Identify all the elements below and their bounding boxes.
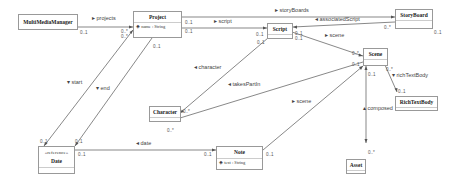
multiplicity: 0..1 bbox=[75, 139, 83, 144]
class-divider bbox=[396, 107, 437, 110]
assoc-composed: ▴ composed bbox=[363, 105, 393, 111]
class-attribute: ◈ name : String bbox=[134, 22, 181, 30]
class-name: Asset bbox=[347, 160, 365, 170]
assoc-storyboards: ▸ storyBoards bbox=[275, 7, 309, 13]
multiplicity: 0..* bbox=[386, 67, 393, 72]
class-name: Scene bbox=[364, 49, 387, 59]
multiplicity: 0..1 bbox=[256, 32, 264, 37]
assoc-associated-script: ◂ associatedScript bbox=[315, 16, 360, 22]
multiplicity: 0..1 bbox=[257, 40, 265, 45]
class-multimedia-manager[interactable]: MultiMediaManager bbox=[18, 14, 78, 30]
class-storyboard[interactable]: StoryBoard bbox=[395, 9, 433, 29]
multiplicity: 0..* bbox=[368, 150, 375, 155]
multiplicity: 0..1 bbox=[352, 62, 360, 67]
assoc-start: ▾ start bbox=[67, 79, 82, 85]
multiplicity: 0..* bbox=[183, 109, 190, 114]
assoc-script: ▸ script bbox=[214, 18, 232, 24]
multiplicity: 0..1 bbox=[78, 152, 86, 157]
multiplicity: 0..1 bbox=[185, 20, 193, 25]
assoc-scene-script: ▸ scene bbox=[325, 32, 344, 38]
class-project[interactable]: Project ◈ name : String bbox=[133, 11, 182, 38]
class-asset[interactable]: Asset bbox=[346, 159, 366, 174]
class-divider bbox=[39, 167, 74, 170]
class-name: Note bbox=[217, 147, 262, 158]
class-name: Project bbox=[134, 12, 181, 22]
multiplicity: 0..1 bbox=[266, 152, 274, 157]
assoc-projects: ▸ projects bbox=[92, 15, 116, 21]
class-divider bbox=[364, 59, 387, 62]
class-divider bbox=[347, 170, 365, 173]
assoc-rich-text-body: ▾ richTextBody bbox=[392, 72, 428, 78]
assoc-scene-note: ▸ scene bbox=[292, 98, 311, 104]
uml-class-diagram: MultiMediaManager Project ◈ name : Strin… bbox=[0, 0, 475, 187]
class-character[interactable]: Character bbox=[149, 106, 181, 122]
class-name: RichTextBody bbox=[396, 97, 437, 107]
assoc-date: ◂ date bbox=[136, 140, 151, 146]
multiplicity: 0..* bbox=[121, 34, 128, 39]
class-name: StoryBoard bbox=[396, 10, 432, 20]
class-name: Script bbox=[268, 24, 292, 34]
class-rich-text-body[interactable]: RichTextBody bbox=[395, 96, 438, 111]
multiplicity: 0..1 bbox=[204, 152, 212, 157]
multiplicity: 0..1 bbox=[398, 89, 406, 94]
class-divider bbox=[396, 20, 432, 23]
multiplicity: 0..1 bbox=[434, 30, 442, 35]
class-stereotype: «reference» bbox=[39, 150, 74, 155]
class-date[interactable]: «reference» Date bbox=[38, 146, 75, 174]
multiplicity: 0..1 bbox=[295, 36, 303, 41]
class-attribute: ◈ text : String bbox=[217, 158, 262, 166]
class-name: Date bbox=[39, 158, 74, 164]
multiplicity: 0..1 bbox=[40, 139, 48, 144]
class-divider bbox=[150, 117, 180, 120]
multiplicity: 0..* bbox=[352, 51, 359, 56]
class-name: Character bbox=[150, 107, 180, 117]
assoc-takes-part-in: ◂ takesPartIn bbox=[228, 81, 260, 87]
class-scene[interactable]: Scene bbox=[363, 48, 388, 66]
multiplicity: 0..1 bbox=[185, 29, 193, 34]
class-divider bbox=[268, 34, 292, 37]
class-name: MultiMediaManager bbox=[19, 15, 77, 29]
multiplicity: 0..* bbox=[167, 128, 174, 133]
multiplicity: 0..1 bbox=[80, 30, 88, 35]
multiplicity: 0..* bbox=[384, 25, 391, 30]
class-script[interactable]: Script bbox=[267, 23, 293, 39]
assoc-character: ◂ character bbox=[194, 64, 221, 70]
assoc-end: ▾ end bbox=[96, 85, 110, 91]
multiplicity: 0..1 bbox=[368, 72, 376, 77]
multiplicity: 0..1 bbox=[153, 44, 161, 49]
class-note[interactable]: Note ◈ text : String bbox=[216, 146, 263, 170]
